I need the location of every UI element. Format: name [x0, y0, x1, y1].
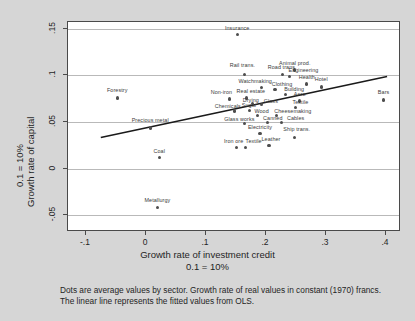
data-point-label: Leather [262, 136, 281, 142]
data-point-label: Glass [264, 98, 278, 104]
x-tick-label: .3 [310, 237, 340, 247]
data-point [156, 206, 159, 209]
data-point-label: Precious metal [132, 117, 169, 123]
data-point [382, 98, 385, 101]
y-tick-mark [63, 28, 67, 29]
data-point [149, 126, 152, 129]
data-point-label: Wood [254, 108, 268, 114]
data-point-label: Glass works [224, 116, 254, 122]
data-point [284, 93, 287, 96]
data-point-label: Insurance [225, 25, 250, 31]
data-point-label: Aero [294, 91, 306, 97]
x-tick-mark [85, 231, 86, 235]
data-point-label: Ship trans. [283, 126, 310, 132]
data-point [116, 96, 119, 99]
x-tick-mark [205, 231, 206, 235]
data-point [267, 144, 270, 147]
y-tick-mark [63, 121, 67, 122]
x-tick-label: -.1 [70, 237, 100, 247]
data-point-label: Electricity [248, 124, 272, 130]
figure-scatter-plot: Growth rate of capital 0.1 = 10% -.050.0… [0, 0, 415, 321]
data-point-label: Chemicals [215, 103, 241, 109]
x-tick-mark [385, 231, 386, 235]
y-axis-subtitle: 0.1 = 10% [14, 144, 25, 187]
caption-line-2: The linear line represents the fitted va… [60, 296, 410, 307]
y-tick-label: -.05 [47, 201, 57, 227]
y-tick-mark [63, 74, 67, 75]
data-point-label: Bars [378, 89, 389, 95]
data-point-label: Non-iron [211, 89, 232, 95]
data-point [248, 109, 251, 112]
data-point-label: Hotel [315, 76, 328, 82]
ols-fit-line [68, 22, 399, 230]
data-point-label: Health [299, 74, 315, 80]
x-axis-title: Growth rate of investment credit [0, 249, 415, 261]
data-point-label: Textile [292, 99, 308, 105]
y-tick-mark [63, 214, 67, 215]
data-point-label: Cheesemaking [274, 108, 311, 114]
data-point-label: Real estate [237, 88, 265, 94]
data-point-label: Iron ore [224, 138, 243, 144]
data-point-label: Coal [153, 148, 165, 154]
y-axis-title: Growth rate of capital [25, 117, 36, 207]
x-axis-subtitle: 0.1 = 10% [0, 261, 415, 273]
figure-caption: Dots are average values by sector. Growt… [60, 285, 410, 307]
y-tick-mark [63, 168, 67, 169]
data-point-label: Cables [287, 115, 304, 121]
data-point-label: Textile [246, 138, 262, 144]
x-tick-label: 0 [130, 237, 160, 247]
x-tick-mark [325, 231, 326, 235]
data-point-label: Watchmaking [238, 78, 272, 84]
y-tick-label: .15 [47, 15, 57, 41]
x-tick-mark [145, 231, 146, 235]
y-tick-label: .05 [47, 108, 57, 134]
y-axis-title-group: Growth rate of capital 0.1 = 10% [14, 21, 36, 231]
y-tick-label: .1 [47, 61, 57, 87]
plot-area: InsuranceAnimal prod.Rail trans.Road tra… [67, 21, 400, 231]
x-tick-label: .1 [190, 237, 220, 247]
data-point-label: Forestry [107, 87, 128, 93]
y-tick-label: 0 [47, 155, 57, 181]
x-tick-label: .2 [250, 237, 280, 247]
x-tick-mark [265, 231, 266, 235]
data-point [320, 85, 323, 88]
data-point [273, 88, 276, 91]
data-point [228, 97, 231, 100]
x-tick-label: .4 [370, 237, 400, 247]
data-point-label: Metallurgy [144, 197, 170, 203]
data-point-label: Engineering [288, 67, 318, 73]
caption-line-1: Dots are average values by sector. Growt… [60, 285, 410, 296]
data-point-label: Rail trans. [230, 62, 255, 68]
